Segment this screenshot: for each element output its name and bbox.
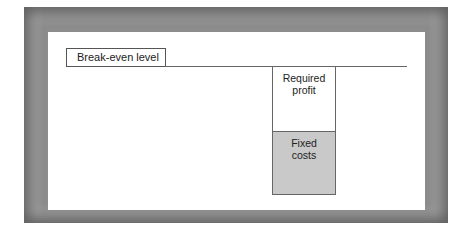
required-profit-label-line1: Required <box>273 72 335 84</box>
fixed-costs-block: Fixed costs <box>272 131 336 195</box>
required-profit-block: Required profit <box>272 66 336 132</box>
required-profit-label-line2: profit <box>273 84 335 96</box>
fixed-costs-label-line1: Fixed <box>273 137 335 149</box>
break-even-level-label: Break-even level <box>66 48 166 67</box>
fixed-costs-label-line2: costs <box>273 149 335 161</box>
